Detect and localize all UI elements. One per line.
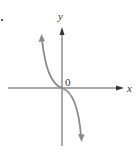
origin-label: 0 [65,76,71,88]
graph: y x 0 [0,0,136,150]
curve-arrow-down-icon [78,134,85,142]
marker-dot [1,19,3,21]
x-axis-label: x [126,82,132,94]
y-axis-label: y [57,10,63,22]
y-axis-arrow-icon [60,27,65,35]
x-axis-arrow-icon [116,86,124,91]
curve-arrow-up-icon [39,34,46,42]
